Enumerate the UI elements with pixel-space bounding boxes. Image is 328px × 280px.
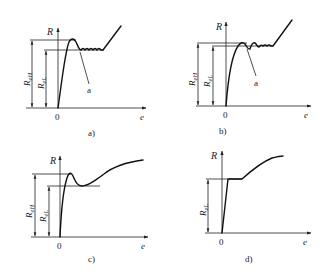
stress-strain-curve [58, 26, 121, 108]
reh-label: ReH [22, 73, 33, 87]
panel-c: R e 0 ReH ReL c) [24, 155, 148, 264]
origin-label: 0 [219, 237, 224, 247]
origin-label: 0 [223, 110, 228, 120]
reh-label: ReH [187, 73, 198, 87]
panel-caption: d) [245, 254, 253, 264]
annotation-leader [80, 52, 89, 84]
panel-caption: c) [88, 254, 95, 264]
annotation-label: a [254, 78, 258, 88]
rel-label: ReL [202, 75, 213, 88]
rel-label: ReL [36, 77, 47, 90]
x-axis-label: e [304, 110, 308, 120]
stress-strain-curve [60, 160, 143, 237]
stress-strain-curve [222, 156, 283, 233]
panel-b: R e 0 ReH ReL a b) [187, 20, 311, 136]
origin-label: 0 [55, 112, 60, 122]
panel-a: R e 0 ReH ReL a a) [22, 26, 146, 138]
panel-d: R e 0 ReL d) [198, 150, 311, 264]
x-axis-label: e [303, 237, 307, 247]
rel-label: ReL [38, 210, 49, 223]
stress-strain-yield-diagram: R e 0 ReH ReL a a) R e 0 ReH ReL a [0, 0, 328, 280]
reh-label: ReH [24, 205, 35, 219]
x-axis-label: e [141, 241, 145, 251]
y-axis-label: R [210, 150, 217, 161]
annotation-label: a [87, 85, 91, 95]
x-axis-label: e [140, 112, 144, 122]
annotation-leader [247, 49, 256, 76]
stress-strain-curve [226, 20, 292, 106]
y-axis-label: R [215, 21, 222, 32]
rel-label: ReL [198, 204, 209, 217]
panel-caption: a) [88, 128, 95, 138]
panel-caption: b) [219, 126, 227, 136]
y-axis-label: R [49, 155, 56, 166]
origin-label: 0 [57, 241, 62, 251]
y-axis-label: R [46, 26, 53, 37]
